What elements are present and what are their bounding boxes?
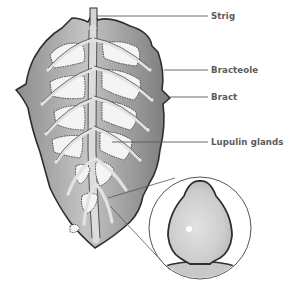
bract-leaf (16, 8, 170, 248)
label-lupulin-glands: Lupulin glands (211, 137, 284, 147)
gland-base (150, 262, 250, 290)
label-strig: Strig (211, 11, 235, 21)
gland-highlight (186, 226, 192, 232)
label-bract: Bract (211, 92, 237, 102)
label-bracteole: Bracteole (211, 65, 258, 75)
